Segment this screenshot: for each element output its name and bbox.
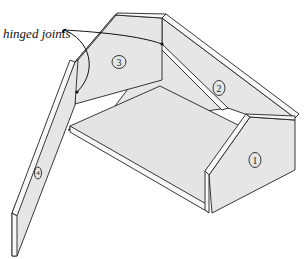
hinged-joints-label: hinged joints xyxy=(3,26,71,42)
svg-text:2: 2 xyxy=(217,83,222,94)
panel-4 xyxy=(12,60,78,256)
svg-text:4: 4 xyxy=(36,169,40,177)
svg-text:3: 3 xyxy=(117,57,122,68)
svg-text:1: 1 xyxy=(253,155,258,166)
